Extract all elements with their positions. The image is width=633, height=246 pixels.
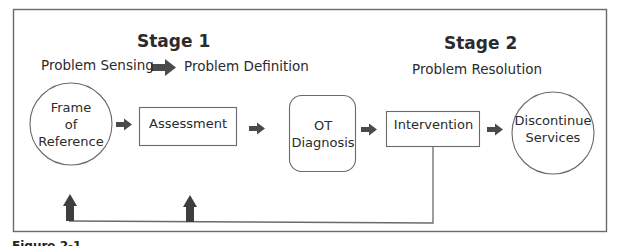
node-frame-line3: Reference (38, 133, 103, 150)
phase-arrow-icon (151, 59, 176, 76)
node-intervention-line1: Intervention (394, 116, 473, 133)
node-diagnosis-line1: OT (314, 117, 332, 134)
node-diagnosis-label: OT Diagnosis (290, 96, 356, 172)
node-diagnosis-line2: Diagnosis (291, 134, 354, 151)
feedback-line (69, 147, 433, 223)
node-frame-label: Frame of Reference (30, 83, 112, 165)
arrow-up-icon (63, 194, 77, 221)
node-discontinue-line1: Discontinue (515, 112, 592, 129)
stage2-title: Stage 2 (444, 33, 517, 53)
stage1-phase-from: Problem Sensing (41, 57, 154, 73)
node-assessment-label: Assessment (140, 108, 236, 138)
node-discontinue-label: Discontinue Services (512, 92, 594, 166)
arrow-right-icon (487, 124, 503, 136)
arrow-right-icon (116, 119, 132, 131)
arrow-right-icon (249, 123, 265, 135)
figure-caption: Figure 2-1 (12, 238, 81, 246)
stage2-phase: Problem Resolution (412, 61, 542, 77)
node-frame-line1: Frame (51, 99, 92, 116)
node-frame-line2: of (65, 116, 78, 133)
node-intervention-label: Intervention (387, 112, 480, 136)
stage1-phase-to: Problem Definition (184, 58, 309, 74)
node-assessment-line1: Assessment (149, 115, 227, 132)
arrow-up-icon (183, 195, 197, 222)
stage1-title: Stage 1 (137, 31, 210, 51)
arrow-right-icon (361, 124, 377, 136)
node-discontinue-line2: Services (526, 129, 581, 146)
